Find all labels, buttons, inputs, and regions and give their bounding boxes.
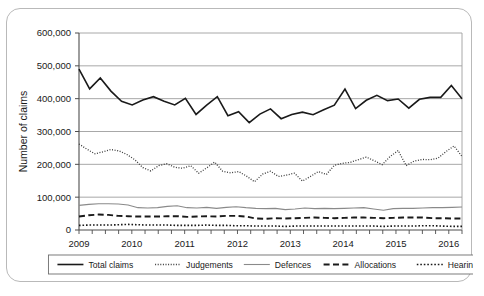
ytick-label: 200,000 <box>37 159 71 170</box>
xtick-label: 2013 <box>280 238 301 249</box>
ytick-label: 300,000 <box>37 126 71 137</box>
ytick-label: 500,000 <box>37 60 71 71</box>
xtick-label: 2015 <box>385 238 406 249</box>
legend-label: Total claims <box>88 260 133 270</box>
series-line-hearings <box>79 224 462 226</box>
y-axis-title: Number of claims <box>17 91 29 173</box>
xtick-label: 2010 <box>121 238 142 249</box>
ytick-label: 600,000 <box>37 27 71 38</box>
ytick-label: 400,000 <box>37 93 71 104</box>
xtick-label: 2016 <box>438 238 459 249</box>
legend-label: Allocations <box>355 260 397 270</box>
xtick-label: 2014 <box>333 238 354 249</box>
legend-label: Judgements <box>186 260 233 270</box>
ytick-label: 0 <box>66 224 71 235</box>
series-line-allocations <box>79 215 462 219</box>
line-chart: 0100,000200,000300,000400,000500,000600,… <box>7 9 473 283</box>
xtick-label: 2011 <box>174 238 194 249</box>
ytick-label: 100,000 <box>37 192 71 203</box>
xtick-label: 2009 <box>68 238 89 249</box>
legend-label: Hearings <box>448 260 473 270</box>
series-line-total-claims <box>79 69 462 123</box>
figure-panel: 0100,000200,000300,000400,000500,000600,… <box>6 8 472 282</box>
chart-canvas: 0100,000200,000300,000400,000500,000600,… <box>7 9 473 283</box>
legend-label: Defences <box>275 260 311 270</box>
series-line-defences <box>79 204 462 211</box>
series-line-judgements <box>79 144 462 182</box>
xtick-label: 2012 <box>227 238 248 249</box>
